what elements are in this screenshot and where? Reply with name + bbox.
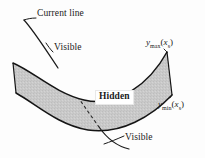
y-max-subscript: max	[150, 43, 160, 49]
current-line-leader	[24, 18, 36, 20]
y-max-leader	[164, 49, 167, 52]
y-min-function-label: ymin(xs)	[158, 100, 184, 111]
current-line-label: Current line	[37, 9, 84, 19]
surface-band-fill	[13, 52, 172, 131]
visible-top-label: Visible	[54, 43, 82, 53]
hidden-label: Hidden	[95, 90, 134, 105]
y-min-close-paren: )	[181, 99, 184, 109]
current-line-visible-upper-segment	[24, 20, 58, 68]
diagram-canvas	[0, 0, 205, 158]
y-max-function-label: ymax(xs)	[146, 38, 173, 49]
y-max-close-paren: )	[170, 37, 173, 47]
visible-bottom-label: Visible	[125, 133, 153, 143]
figure-container: Current line Visible Visible Hidden ymax…	[0, 0, 205, 158]
